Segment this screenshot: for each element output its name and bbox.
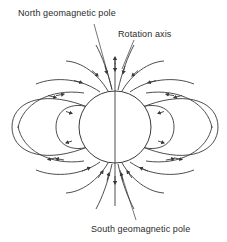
field-line-lower-right-3	[122, 163, 164, 193]
field-line-upper-left-4	[96, 45, 112, 90]
field-line-upper-left-1	[18, 92, 84, 128]
field-line-lower-left-3	[66, 163, 108, 193]
label-rotation-axis: Rotation axis	[118, 29, 171, 40]
leader-line-north	[94, 24, 112, 89]
field-line-lower-left-1	[18, 126, 84, 162]
field-line-lower-right-2	[130, 162, 194, 174]
label-south-geomagnetic-pole: South geomagnetic pole	[91, 224, 190, 235]
label-north-geomagnetic-pole: North geomagnetic pole	[18, 8, 116, 19]
field-line-lower-left-2	[36, 162, 100, 174]
field-line-upper-right-2	[130, 80, 194, 92]
geomagnetic-field-diagram: North geomagnetic pole Rotation axis Sou…	[0, 0, 227, 242]
field-line-upper-right-1	[146, 92, 212, 128]
field-line-lower-right-1	[146, 126, 212, 162]
field-line-illustration	[0, 0, 227, 242]
field-line-upper-left-3	[66, 61, 108, 91]
field-line-upper-right-4	[118, 45, 134, 90]
leader-line-rotation	[122, 40, 134, 69]
field-line-upper-left-2	[36, 80, 100, 92]
field-line-lower-left-4	[96, 164, 112, 209]
field-line-upper-right-3	[122, 61, 164, 91]
